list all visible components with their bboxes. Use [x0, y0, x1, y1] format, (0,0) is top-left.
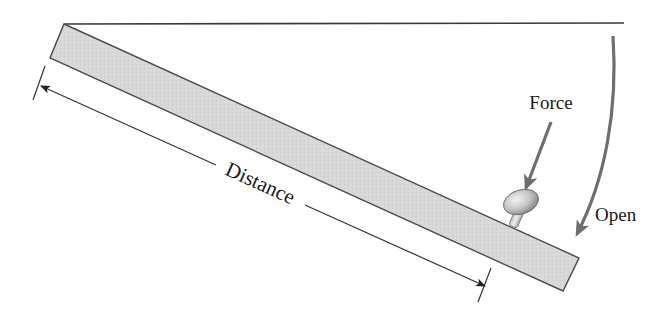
open-label: Open	[595, 204, 637, 225]
door-torque-diagram: Distance Force Open	[0, 0, 671, 315]
door-knob	[500, 185, 542, 228]
closed-position-line	[64, 23, 624, 24]
force-annotation: Force	[526, 92, 573, 188]
distance-dimension: Distance	[33, 66, 491, 302]
open-annotation: Open	[577, 36, 637, 234]
door-plank	[50, 24, 579, 291]
force-label: Force	[529, 92, 572, 113]
distance-tick-right	[478, 268, 491, 302]
distance-tick-left	[33, 66, 45, 100]
force-arrow	[526, 122, 551, 188]
